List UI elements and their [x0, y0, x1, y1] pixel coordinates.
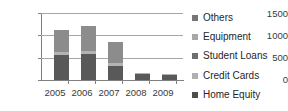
bar-2005-segment-equipment [54, 30, 69, 53]
x-axis-tick-mark-4 [176, 80, 177, 84]
x-axis-tick-label-2006: 2006 [69, 88, 95, 98]
x-axis-tick-label-2009: 2009 [150, 88, 176, 98]
legend-swatch-equipment-icon [192, 34, 198, 40]
bar-2006 [81, 26, 96, 80]
bar-2006-segment-credit-cards [81, 51, 96, 54]
x-axis-tick-mark-1 [95, 80, 96, 84]
legend-label-equipment: Equipment [203, 32, 251, 42]
x-axis-line [41, 80, 184, 81]
bar-2005 [54, 30, 69, 81]
legend-label-others: Others [203, 13, 233, 23]
x-axis-tick-mark-2 [122, 80, 123, 84]
legend-item-student-loans: Student Loans [192, 47, 288, 66]
legend: Others Equipment Student Loans Credit Ca… [192, 8, 288, 105]
legend-item-others: Others [192, 8, 288, 27]
gridline-1500 [41, 13, 183, 14]
bar-2007-segment-equipment [108, 42, 123, 63]
bar-2005-segment-home-equity [54, 55, 69, 80]
legend-label-home-equity: Home Equity [203, 90, 260, 100]
plot-area [41, 13, 183, 80]
legend-item-credit-cards: Credit Cards [192, 66, 288, 85]
x-axis-tick-label-2007: 2007 [96, 88, 122, 98]
x-axis-tick-label-2005: 2005 [42, 88, 68, 98]
x-axis-tick-mark-0 [68, 80, 69, 84]
bar-2007-segment-home-equity [108, 66, 123, 80]
legend-swatch-credit-cards-icon [192, 73, 198, 79]
bar-2006-segment-equipment [81, 26, 96, 51]
bar-2008-segment-credit-cards [135, 73, 150, 74]
bar-2007 [108, 42, 123, 80]
bar-2009-segment-credit-cards [162, 74, 177, 75]
bar-2005-segment-credit-cards [54, 52, 69, 55]
bar-2007-segment-credit-cards [108, 63, 123, 66]
x-axis-tick-label-2008: 2008 [123, 88, 149, 98]
legend-swatch-others-icon [192, 15, 198, 21]
legend-swatch-home-equity-icon [192, 92, 198, 98]
bar-2008 [135, 73, 150, 80]
legend-item-home-equity: Home Equity [192, 86, 288, 105]
x-axis-tick-mark-3 [149, 80, 150, 84]
legend-label-student-loans: Student Loans [203, 51, 268, 61]
legend-label-credit-cards: Credit Cards [203, 71, 259, 81]
legend-item-equipment: Equipment [192, 27, 288, 46]
legend-swatch-student-loans-icon [192, 53, 198, 59]
stacked-bar-chart: 1500 1000 500 0 [0, 0, 288, 111]
bar-2006-segment-home-equity [81, 54, 96, 80]
